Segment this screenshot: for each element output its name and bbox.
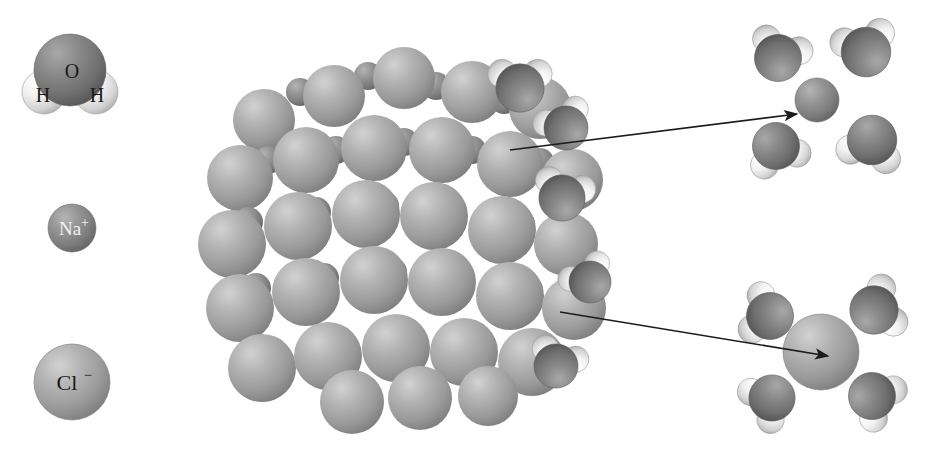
chloride-ion-lattice	[408, 248, 476, 316]
nacl-dissolution-illustration: O H H Na + Cl −	[0, 0, 929, 453]
chloride-ion-lattice	[458, 366, 518, 426]
chloride-ion-lattice	[228, 334, 296, 402]
chloride-ion-lattice	[476, 262, 544, 330]
chloride-ion-lattice	[341, 115, 407, 181]
chloride-ion-lattice	[272, 258, 340, 326]
chloride-ion-lattice	[206, 274, 274, 342]
chloride-ion-lattice	[468, 196, 536, 264]
chloride-sphere	[34, 344, 110, 420]
legend-item-chloride-ion: Cl −	[34, 344, 110, 420]
sodium-sphere	[48, 204, 96, 252]
chloride-ion-lattice	[207, 145, 273, 211]
chloride-ion-lattice	[264, 192, 332, 260]
chloride-ion-lattice	[340, 246, 408, 314]
chloride-ion-lattice	[332, 180, 400, 248]
chloride-ion-lattice	[400, 182, 468, 250]
chloride-ion-lattice	[477, 131, 543, 197]
chloride-ion-lattice	[303, 65, 365, 127]
chloride-ion-lattice	[273, 127, 339, 193]
chloride-ion-lattice	[373, 47, 435, 109]
figure-canvas: O H H Na + Cl −	[0, 0, 929, 453]
chloride-ion-lattice	[409, 117, 475, 183]
chloride-ion-hydrated	[783, 314, 859, 390]
chloride-ion-lattice	[388, 366, 452, 430]
oxygen-sphere	[34, 34, 106, 106]
sodium-ion-hydrated	[795, 78, 839, 122]
legend-item-sodium-ion: Na +	[48, 204, 96, 252]
chloride-ion-lattice	[320, 370, 384, 434]
chloride-ion-lattice	[198, 210, 266, 278]
